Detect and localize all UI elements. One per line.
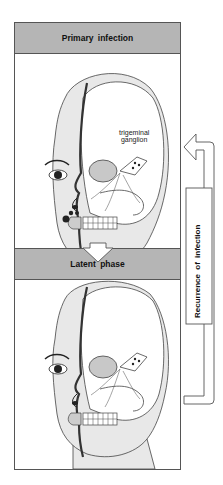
flow-arrows <box>0 0 223 485</box>
down-arrow-icon <box>83 243 113 262</box>
recurrence-of-infection-label: Recurrence of infection <box>193 225 202 318</box>
